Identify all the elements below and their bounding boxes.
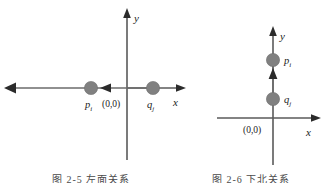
origin-label: (0,0)	[243, 125, 261, 136]
figure-sheet: y x pi qj (0,0) y	[0, 0, 333, 183]
caption-right: 图 2-6 下北关系	[212, 171, 322, 183]
point-label-p: pi	[84, 99, 92, 113]
point-label-p: pi	[283, 55, 291, 69]
relation-arrowhead-outer	[4, 83, 16, 94]
point-label-p-sub: i	[289, 61, 291, 69]
point-dot-q	[146, 81, 159, 94]
y-axis-label: y	[279, 30, 285, 42]
point-label-q: qj	[147, 99, 154, 113]
y-axis-arrowhead	[269, 26, 277, 36]
point-label-q-sub: j	[151, 105, 154, 113]
relation-arrowhead-inner	[100, 83, 111, 92]
x-axis-arrowhead	[176, 84, 186, 92]
diagram-right-vertical-relation: y x pi qj (0,0)	[200, 0, 333, 183]
point-dot-p	[84, 81, 97, 94]
relation-arrowhead-inner	[269, 68, 278, 79]
y-axis-arrowhead	[123, 8, 131, 18]
point-dot-p	[266, 53, 279, 66]
point-label-p-sub: i	[90, 105, 92, 113]
point-dot-q	[266, 92, 279, 105]
x-axis-label: x	[305, 126, 311, 138]
point-label-q: qj	[284, 94, 291, 108]
x-axis-arrowhead	[311, 114, 321, 122]
point-label-q-sub: j	[288, 100, 291, 108]
origin-label: (0,0)	[102, 99, 120, 110]
x-axis-label: x	[172, 96, 178, 108]
diagram-left-horizontal-relation: y x pi qj (0,0)	[0, 0, 200, 183]
y-axis-label: y	[133, 12, 139, 24]
caption-left: 图 2-5 左面关系	[52, 171, 162, 183]
